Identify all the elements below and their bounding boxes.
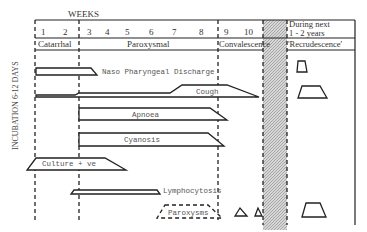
week-4: 4: [105, 27, 110, 37]
cyanosis-label: Cyanosis: [124, 136, 160, 144]
paroxysms-label: Paroxysms: [168, 209, 209, 217]
incubation-label: INCUBATION 6-12 DAYS: [11, 61, 20, 150]
recrudescence-cough: [298, 86, 327, 98]
paroxysm-episode-1: [235, 208, 247, 216]
week-7: 7: [172, 27, 177, 37]
culture-label: Culture + ve: [42, 160, 96, 168]
pertussis-timeline-diagram: WEEKS 1 2 3 4 5 6 7 8 9 10 During next 1…: [0, 0, 367, 232]
phase-paroxysmal: Paroxysmal: [127, 39, 170, 49]
week-3: 3: [87, 27, 92, 37]
phase-convalescence: Convalescence: [219, 39, 270, 49]
lymphocytosis-label: Lymphocytosis: [163, 187, 222, 195]
apnoea-label: Apnoea: [132, 111, 160, 119]
time-gap-band: [263, 20, 287, 230]
week-2: 2: [63, 27, 68, 37]
week-6: 6: [149, 27, 154, 37]
recrudescence-naso: [297, 61, 307, 72]
naso-discharge-bar: [36, 68, 97, 75]
week-5: 5: [125, 27, 130, 37]
weeks-label: WEEKS: [68, 9, 99, 19]
paroxysm-episode-2: [255, 208, 262, 216]
cough-label: Cough: [196, 88, 219, 96]
week-9: 9: [224, 27, 229, 37]
phase-catarrhal: Catarrhal: [38, 39, 72, 49]
week-8: 8: [199, 27, 204, 37]
recrudescence-paroxysm: [302, 203, 326, 217]
phase-recrudescence: 'Recrudescence': [288, 39, 342, 49]
week-10: 10: [244, 27, 254, 37]
naso-label: Naso Pharyngeal Discharge: [102, 68, 215, 76]
week-1: 1: [41, 27, 46, 37]
later-period-label-2: 1 - 2 years: [289, 28, 325, 38]
lymphocytosis-bar: [71, 190, 160, 194]
cough-bar: [36, 85, 259, 97]
